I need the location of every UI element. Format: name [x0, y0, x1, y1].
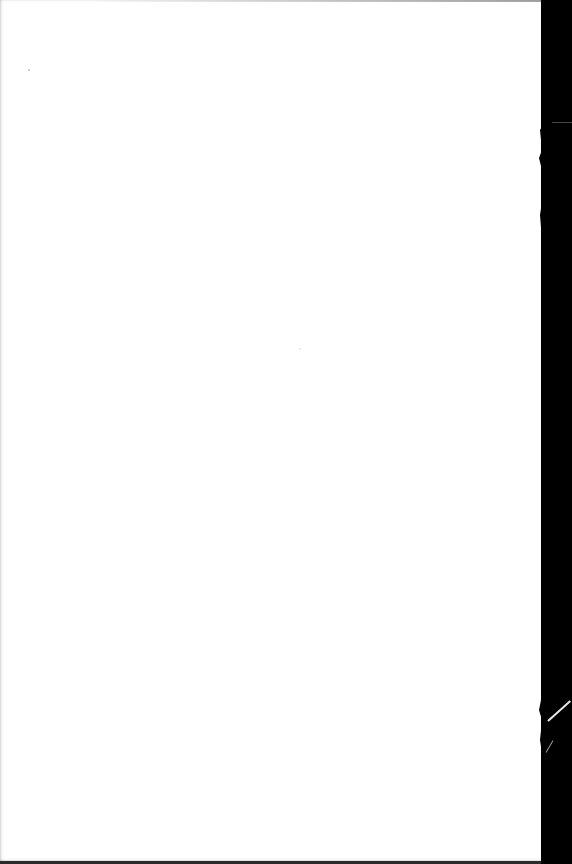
scanner-glare-mark — [546, 740, 554, 753]
scanner-line — [552, 122, 572, 123]
page-top-shadow — [90, 0, 541, 2]
blank-page — [0, 0, 541, 861]
dust-speck — [299, 348, 301, 350]
scanner-glare-mark — [547, 700, 571, 722]
dust-speck — [28, 69, 30, 71]
page-edge-irregularity — [537, 0, 545, 864]
scanned-document — [0, 0, 572, 864]
